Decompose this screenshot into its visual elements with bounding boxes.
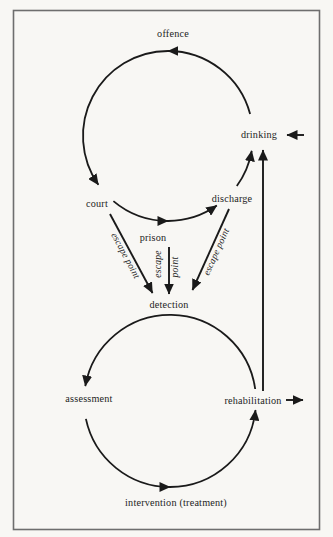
arc-detection-to-assessment — [85, 315, 255, 389]
arc-discharge-to-drinking — [237, 151, 252, 186]
arc-top-to-court — [83, 51, 168, 185]
node-offence: offence — [157, 28, 189, 39]
label-escape-prison-line-word2: point — [169, 257, 180, 279]
node-drinking: drinking — [241, 129, 277, 140]
arc-assessment-to-intervention — [86, 419, 170, 487]
node-prison: prison — [140, 232, 167, 243]
label-escape-point-court-line: escape point — [109, 230, 143, 280]
arc-intervention-to-rehabilitation — [170, 410, 256, 487]
node-rehabilitation: rehabilitation — [224, 395, 281, 406]
node-assessment: assessment — [65, 393, 112, 404]
arc-prison-to-discharge — [168, 206, 217, 221]
label-escape-point-discharge-line: escape point — [200, 226, 231, 277]
node-discharge: discharge — [212, 193, 253, 204]
node-court: court — [86, 198, 108, 209]
label-escape-prison-line-word1: escape — [152, 250, 163, 278]
arc-drinking-to-top — [168, 51, 250, 114]
node-intervention: intervention (treatment) — [125, 497, 227, 509]
scanned-diagram-page: offence court prison discharge drinking … — [0, 0, 333, 537]
arc-court-to-prison — [113, 201, 168, 221]
node-detection: detection — [149, 299, 188, 310]
page-frame — [14, 11, 320, 530]
two-cycle-flow-diagram: offence court prison discharge drinking … — [0, 0, 333, 537]
